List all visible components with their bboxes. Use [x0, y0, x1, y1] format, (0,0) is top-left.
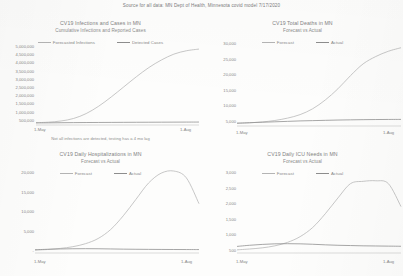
- chart-grid: CV19 Infections and Cases in MN Cumulati…: [0, 14, 403, 276]
- y-axis-labels: 3,000 2,500 2,000 1,500 1,000 500: [212, 173, 236, 251]
- plot-svg: [35, 165, 201, 261]
- y-tick: 2,000: [226, 202, 236, 206]
- y-tick: 1,500,000: [16, 102, 34, 106]
- y-tick: 4,000,000: [16, 61, 34, 65]
- y-tick: 500: [229, 249, 236, 253]
- y-tick: 1,000,000: [16, 111, 34, 115]
- y-axis-labels: 5,000,000 4,500,000 4,000,000 3,500,000 …: [4, 47, 34, 121]
- panel-total-deaths: CV19 Total Deaths in MN Forecast vs Actu…: [202, 14, 403, 145]
- plot-area: 20,000 15,000 10,000 5,000 - 1-May 1-Aug: [0, 145, 201, 276]
- y-tick: 5,000: [24, 229, 34, 233]
- panel-daily-hospitalizations: CV19 Daily Hospitalizations in MN Foreca…: [0, 145, 201, 276]
- x-tick: 1-Aug: [180, 127, 191, 132]
- y-tick: 15,000: [223, 89, 236, 93]
- y-tick: 3,000: [226, 171, 236, 175]
- series-forecast: [237, 48, 401, 124]
- x-tick: 1-May: [34, 259, 46, 264]
- y-tick: 20,000: [21, 171, 34, 175]
- x-tick: 1-May: [236, 130, 248, 135]
- x-tick: 1-Aug: [181, 259, 192, 264]
- panel-daily-icu-needs: CV19 Daily ICU Needs in MN Forecast vs A…: [202, 145, 403, 276]
- y-tick: 2,000,000: [16, 94, 34, 98]
- source-note: Source for all data: MN Dept of Health, …: [0, 3, 403, 8]
- y-tick: -: [33, 249, 34, 253]
- y-tick: 2,500: [226, 187, 236, 191]
- scanned-page: Source for all data: MN Dept of Health, …: [0, 0, 403, 276]
- y-axis-labels: 20,000 15,000 10,000 5,000 -: [8, 173, 34, 251]
- y-tick: 5,000: [226, 120, 236, 124]
- series-forecasted-infections: [36, 49, 199, 123]
- x-tick: 1-Aug: [383, 130, 394, 135]
- y-tick: 3,500,000: [16, 70, 34, 74]
- series-forecast: [237, 181, 401, 250]
- y-tick: 2,500,000: [16, 86, 34, 90]
- panel-infections-and-cases: CV19 Infections and Cases in MN Cumulati…: [0, 14, 201, 145]
- y-tick: 10,000: [223, 104, 236, 108]
- plot-svg: [237, 165, 403, 261]
- plot-svg: [237, 36, 403, 131]
- series-actual: [237, 119, 401, 123]
- y-tick: 25,000: [223, 58, 236, 62]
- series-actual: [237, 244, 401, 247]
- plot-svg: [36, 39, 201, 129]
- y-axis-labels: 30,000 25,000 20,000 15,000 10,000 5,000: [210, 44, 236, 122]
- y-tick: 10,000: [21, 210, 34, 214]
- y-tick: 15,000: [21, 190, 34, 194]
- x-tick: 1-May: [34, 127, 46, 132]
- y-tick: 1,000: [226, 233, 236, 237]
- series-detected-cases: [36, 122, 199, 123]
- y-tick: 5,000,000: [16, 45, 34, 49]
- y-tick: 30,000: [223, 42, 236, 46]
- y-tick: 3,000,000: [16, 78, 34, 82]
- y-tick: 500,000: [19, 119, 34, 123]
- y-tick: 20,000: [223, 73, 236, 77]
- x-tick: 1-Aug: [383, 259, 394, 264]
- plot-area: 5,000,000 4,500,000 4,000,000 3,500,000 …: [0, 14, 201, 145]
- x-tick: 1-May: [236, 259, 248, 264]
- plot-area: 3,000 2,500 2,000 1,500 1,000 500 1-May …: [202, 145, 403, 276]
- y-tick: 1,500: [226, 218, 236, 222]
- series-actual: [35, 249, 199, 250]
- plot-area: 30,000 25,000 20,000 15,000 10,000 5,000…: [202, 14, 403, 145]
- y-tick: 4,500,000: [16, 53, 34, 57]
- chart-footnote: Not all infections are detected, testing…: [0, 136, 201, 141]
- series-forecast: [35, 171, 199, 250]
